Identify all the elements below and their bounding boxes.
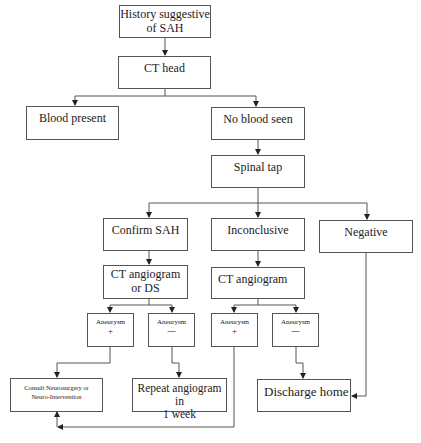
aneurysm-positive-2-line1: Aneurysm (212, 318, 257, 326)
consult-node: Consult Neurosurgery or Neuro-Interventi… (10, 378, 103, 412)
aneurysm-positive-1-line2: + (88, 326, 133, 336)
aneurysm-negative-node-1: Aneurysm — (148, 313, 195, 347)
history-line1: History suggestive (120, 8, 210, 22)
repeat-angio-line1: Repeat angiogram in (133, 382, 226, 408)
confirm-sah-label: Confirm SAH (104, 224, 187, 238)
discharge-node: Discharge home (257, 379, 351, 412)
aneurysm-positive-1-line1: Aneurysm (88, 318, 133, 326)
aneurysm-positive-node-2: Aneurysm + (211, 313, 258, 347)
history-node: History suggestive of SAH (119, 5, 211, 38)
aneurysm-positive-node-1: Aneurysm + (87, 313, 134, 347)
repeat-angio-line2: 1 week (133, 408, 226, 421)
aneurysm-negative-1-line1: Aneurysm (149, 318, 194, 326)
inconclusive-label: Inconclusive (212, 224, 304, 238)
ct-angio-label: CT angiogram (218, 273, 304, 287)
aneurysm-negative-2-line1: Aneurysm (273, 318, 318, 326)
ct-angio-ds-line2: or DS (104, 282, 187, 296)
discharge-label: Discharge home (264, 385, 350, 400)
ct-angio-node: CT angiogram (211, 267, 305, 299)
history-line2: of SAH (120, 22, 210, 36)
spinal-tap-node: Spinal tap (211, 155, 305, 188)
spinal-tap-label: Spinal tap (212, 161, 304, 175)
consult-line1: Consult Neurosurgery or (11, 384, 102, 393)
no-blood-label: No blood seen (212, 113, 304, 127)
negative-label: Negative (320, 226, 412, 240)
blood-present-label: Blood present (27, 112, 118, 126)
ct-angio-ds-line1: CT angiogram (104, 268, 187, 282)
aneurysm-negative-2-line2: — (273, 326, 318, 335)
blood-present-node: Blood present (26, 106, 119, 140)
aneurysm-negative-1-line2: — (149, 326, 194, 335)
ct-head-label: CT head (119, 62, 210, 76)
aneurysm-negative-node-2: Aneurysm — (272, 313, 319, 347)
sah-flowchart: History suggestive of SAH CT head Blood … (0, 0, 421, 443)
inconclusive-node: Inconclusive (211, 218, 305, 251)
negative-node: Negative (319, 220, 413, 253)
consult-line2: Neuro-Intervention (11, 393, 102, 402)
confirm-sah-node: Confirm SAH (103, 218, 188, 251)
aneurysm-positive-2-line2: + (212, 326, 257, 336)
ct-head-node: CT head (118, 56, 211, 89)
ct-angio-ds-node: CT angiogram or DS (103, 265, 188, 299)
repeat-angio-node: Repeat angiogram in 1 week (132, 378, 227, 412)
no-blood-node: No blood seen (211, 107, 305, 140)
